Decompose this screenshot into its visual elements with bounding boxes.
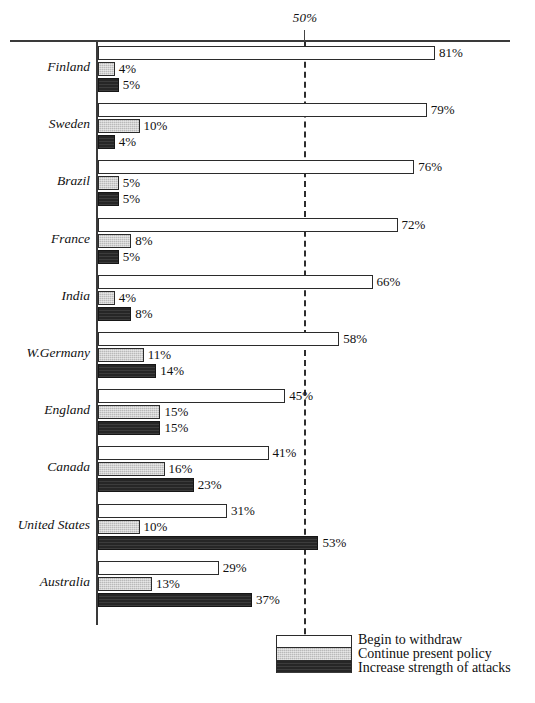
bar-row: 8% bbox=[98, 307, 518, 321]
bar-segment bbox=[98, 176, 119, 190]
legend-label-list: Begin to withdraw Continue present polic… bbox=[358, 633, 511, 676]
bar-segment bbox=[98, 593, 252, 607]
bar-row: 14% bbox=[98, 364, 518, 378]
bar-segment bbox=[98, 561, 219, 575]
bar-value-label: 31% bbox=[231, 503, 255, 518]
bar-value-label: 10% bbox=[144, 118, 168, 133]
bar-segment bbox=[98, 536, 318, 550]
gray-swatch bbox=[277, 648, 351, 660]
bar-value-label: 4% bbox=[119, 290, 136, 305]
bar-segment bbox=[98, 405, 160, 419]
bar-row: 15% bbox=[98, 405, 518, 419]
bar-row: 4% bbox=[98, 291, 518, 305]
bar-segment bbox=[98, 421, 160, 435]
bar-segment bbox=[98, 307, 131, 321]
category-label: France bbox=[0, 231, 90, 247]
black-swatch bbox=[277, 661, 351, 673]
bar-segment bbox=[98, 234, 131, 248]
bar-segment bbox=[98, 389, 285, 403]
bar-value-label: 41% bbox=[273, 445, 297, 460]
category-label: United States bbox=[0, 517, 90, 533]
axis-tick-50 bbox=[304, 30, 305, 41]
bar-segment bbox=[98, 135, 115, 149]
bar-segment bbox=[98, 103, 427, 117]
bar-value-label: 8% bbox=[135, 233, 152, 248]
bar-value-label: 76% bbox=[418, 159, 442, 174]
bar-row: 31% bbox=[98, 504, 518, 518]
bar-segment bbox=[98, 218, 398, 232]
category-label: Brazil bbox=[0, 173, 90, 189]
bar-value-label: 29% bbox=[223, 560, 247, 575]
category-label: England bbox=[0, 402, 90, 418]
bar-segment bbox=[98, 291, 115, 305]
category-label: Australia bbox=[0, 574, 90, 590]
bar-segment bbox=[98, 160, 414, 174]
bar-segment bbox=[98, 462, 165, 476]
bar-row: 58% bbox=[98, 332, 518, 346]
legend-item-label: Increase strength of attacks bbox=[358, 661, 511, 675]
bar-row: 15% bbox=[98, 421, 518, 435]
white-swatch bbox=[277, 636, 351, 648]
bar-value-label: 5% bbox=[123, 77, 140, 92]
bar-row: 13% bbox=[98, 577, 518, 591]
bar-value-label: 11% bbox=[148, 347, 171, 362]
bar-segment bbox=[98, 275, 373, 289]
bar-segment bbox=[98, 119, 140, 133]
bar-value-label: 23% bbox=[198, 477, 222, 492]
bar-row: 41% bbox=[98, 446, 518, 460]
bar-segment bbox=[98, 520, 140, 534]
bar-row: 5% bbox=[98, 250, 518, 264]
bar-row: 8% bbox=[98, 234, 518, 248]
bar-row: 37% bbox=[98, 593, 518, 607]
axis-tick-label-50: 50% bbox=[279, 10, 331, 26]
bar-segment bbox=[98, 250, 119, 264]
bar-value-label: 14% bbox=[160, 363, 184, 378]
bar-chart: 50% Finland81%4%5%Sweden79%10%4%Brazil76… bbox=[0, 0, 535, 703]
bar-value-label: 5% bbox=[123, 175, 140, 190]
bar-segment bbox=[98, 446, 269, 460]
bar-row: 10% bbox=[98, 520, 518, 534]
bar-value-label: 37% bbox=[256, 592, 280, 607]
bar-row: 5% bbox=[98, 192, 518, 206]
bar-segment bbox=[98, 46, 435, 60]
bar-value-label: 4% bbox=[119, 61, 136, 76]
bar-row: 5% bbox=[98, 78, 518, 92]
bar-segment bbox=[98, 62, 115, 76]
bar-segment bbox=[98, 78, 119, 92]
bar-value-label: 72% bbox=[402, 217, 426, 232]
bar-row: 45% bbox=[98, 389, 518, 403]
bar-segment bbox=[98, 364, 156, 378]
bar-segment bbox=[98, 577, 152, 591]
bar-value-label: 45% bbox=[289, 388, 313, 403]
bar-value-label: 4% bbox=[119, 134, 136, 149]
bar-row: 23% bbox=[98, 478, 518, 492]
bar-value-label: 8% bbox=[135, 306, 152, 321]
bar-value-label: 5% bbox=[123, 249, 140, 264]
bar-segment bbox=[98, 504, 227, 518]
bar-row: 5% bbox=[98, 176, 518, 190]
bar-row: 11% bbox=[98, 348, 518, 362]
bar-row: 4% bbox=[98, 135, 518, 149]
category-label: Finland bbox=[0, 59, 90, 75]
bar-value-label: 15% bbox=[164, 420, 188, 435]
bar-value-label: 15% bbox=[164, 404, 188, 419]
bar-value-label: 66% bbox=[377, 274, 401, 289]
bar-value-label: 13% bbox=[156, 576, 180, 591]
category-label: Sweden bbox=[0, 116, 90, 132]
bar-row: 81% bbox=[98, 46, 518, 60]
bar-segment bbox=[98, 478, 194, 492]
legend-item-label: Begin to withdraw bbox=[358, 633, 511, 647]
bar-segment bbox=[98, 332, 339, 346]
bar-value-label: 10% bbox=[144, 519, 168, 534]
bar-segment bbox=[98, 192, 119, 206]
bar-row: 72% bbox=[98, 218, 518, 232]
bar-value-label: 16% bbox=[169, 461, 193, 476]
bar-row: 16% bbox=[98, 462, 518, 476]
legend-item-label: Continue present policy bbox=[358, 647, 511, 661]
category-label: Canada bbox=[0, 459, 90, 475]
bar-value-label: 81% bbox=[439, 45, 463, 60]
bar-row: 29% bbox=[98, 561, 518, 575]
category-label: India bbox=[0, 288, 90, 304]
legend-swatch-box bbox=[276, 635, 352, 673]
category-label: W.Germany bbox=[0, 345, 90, 361]
